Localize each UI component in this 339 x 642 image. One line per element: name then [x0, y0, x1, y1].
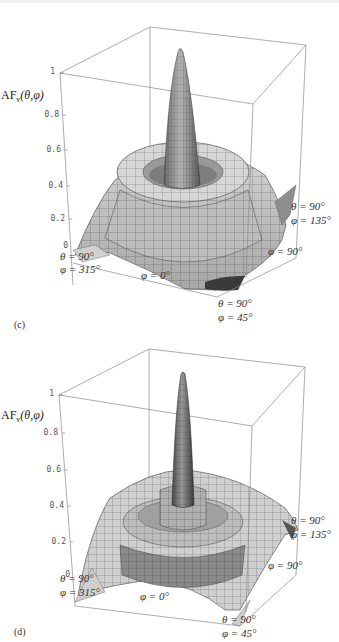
label-front-edge: φ = 0°: [141, 269, 170, 281]
z-tick-1: 1: [27, 67, 55, 76]
label-front-edge: φ = 0°: [140, 590, 169, 602]
caption-c: (c): [14, 319, 25, 330]
label-right-edge: φ = 90°: [268, 559, 302, 571]
label-bottom-phi: φ = 45°: [218, 311, 252, 323]
label-right-theta: θ = 90°: [291, 200, 325, 212]
z-tick-0.2: 0.2: [38, 537, 66, 546]
surface-plot-d: [0, 330, 339, 642]
caption-d: (d): [14, 626, 26, 637]
label-right-phi: φ = 135°: [291, 214, 331, 226]
label-bottom-theta: θ = 90°: [222, 613, 256, 625]
z-tick-0.4: 0.4: [35, 181, 63, 190]
z-tick-1: 1: [26, 389, 54, 398]
z-tick-0: 0: [40, 241, 68, 250]
figure-d: 1 0.8 0.6 0.4 0.2 0 AFv(θ,φ) θ = 90° φ =…: [0, 330, 339, 642]
z-tick-0.8: 0.8: [30, 428, 58, 437]
z-axis-ticks: [59, 395, 73, 542]
z-tick-0.2: 0.2: [37, 214, 65, 223]
z-tick-0.8: 0.8: [31, 110, 59, 119]
z-tick-0.6: 0.6: [33, 145, 61, 154]
z-axis-ticks: [60, 73, 72, 219]
figure-c: 1 0.8 0.6 0.4 0.2 0 AFv(θ,φ) θ = 90° φ =…: [0, 0, 339, 330]
label-right-theta: θ = 90°: [291, 514, 325, 526]
label-left-phi: φ = 315°: [60, 586, 100, 598]
z-axis-label: AFv(θ,φ): [1, 408, 44, 424]
z-axis-label: AFv(θ,φ): [1, 88, 44, 104]
label-left-theta: θ = 90°: [60, 250, 94, 262]
label-left-phi: φ = 315°: [60, 263, 100, 275]
label-bottom-phi: φ = 45°: [222, 627, 256, 639]
label-right-edge: φ = 90°: [268, 245, 302, 257]
z-tick-0.4: 0.4: [36, 501, 64, 510]
z-tick-0.6: 0.6: [33, 465, 61, 474]
label-bottom-theta: θ = 90°: [218, 297, 252, 309]
label-left-theta: θ = 90°: [60, 572, 94, 584]
label-right-phi: φ = 135°: [291, 528, 331, 540]
